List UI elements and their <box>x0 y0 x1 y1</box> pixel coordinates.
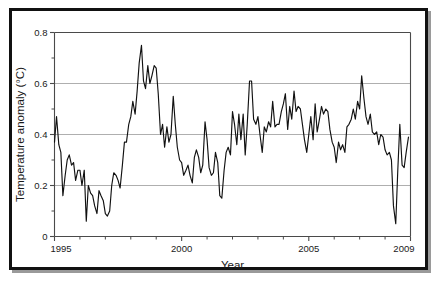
gridlines <box>55 84 411 186</box>
tick-marks <box>50 33 411 242</box>
x-tick-label: 2005 <box>298 243 319 254</box>
tick-labels: 00.20.40.60.81995200020052009YearTempera… <box>14 27 415 271</box>
y-tick-label: 0.2 <box>34 180 47 191</box>
line-chart: 00.20.40.60.81995200020052009YearTempera… <box>0 0 441 286</box>
x-axis-title: Year <box>221 259 244 271</box>
y-tick-label: 0.4 <box>34 129 47 140</box>
y-axis-title: Temperature anomaly (°C) <box>14 67 26 202</box>
figure-container: 00.20.40.60.81995200020052009YearTempera… <box>0 0 441 286</box>
y-tick-label: 0.6 <box>34 78 47 89</box>
x-tick-label: 2009 <box>393 243 414 254</box>
x-tick-label: 2000 <box>171 243 192 254</box>
y-tick-label: 0 <box>42 231 47 242</box>
x-tick-label: 1995 <box>51 243 72 254</box>
y-tick-label: 0.8 <box>34 27 47 38</box>
